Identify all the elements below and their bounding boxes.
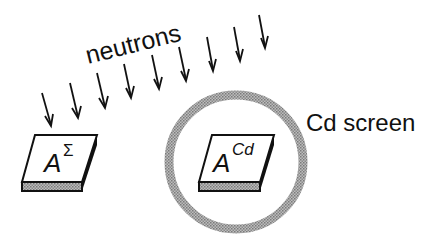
arrow-icon (179, 47, 189, 81)
arrow-icon (234, 27, 243, 61)
sample-a-cd-superscript: Cd (232, 140, 254, 159)
arrow-icon (70, 83, 81, 118)
neutron-diagram: neutrons Cd screen A Σ A Cd (0, 0, 445, 237)
sample-a-cd-base: A (211, 148, 230, 178)
arrow-icon (259, 15, 268, 48)
sample-a-cd: A Cd (199, 135, 274, 191)
arrow-icon (124, 64, 134, 98)
arrow-icon (42, 93, 53, 126)
arrow-icon (97, 73, 108, 108)
sample-a-sigma-base: A (42, 148, 61, 178)
arrow-icon (152, 55, 162, 89)
arrow-icon (207, 37, 216, 71)
neutrons-label: neutrons (82, 18, 183, 69)
sample-a-sigma: A Σ (22, 135, 97, 191)
sample-a-sigma-superscript: Σ (63, 141, 74, 160)
cd-screen-label: Cd screen (306, 109, 415, 136)
